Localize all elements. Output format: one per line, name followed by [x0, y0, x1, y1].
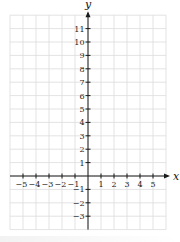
y-tick-label: 9: [79, 51, 84, 60]
x-tick-label: −5: [16, 180, 28, 189]
x-axis-label: x: [173, 170, 180, 183]
axes: [10, 11, 170, 229]
coordinate-plane: −5−4−3−2−112345 1110987654321−1−2−3 x y: [0, 0, 180, 242]
x-tick-label: 4: [137, 180, 142, 189]
x-tick-label: −3: [42, 180, 54, 189]
y-tick-label: 2: [79, 145, 84, 154]
x-tick-label: 1: [98, 180, 103, 189]
y-tick-label: 7: [79, 78, 84, 87]
y-tick-label: 1: [79, 159, 84, 168]
y-tick-label: 11: [74, 25, 84, 34]
y-axis-label: y: [84, 0, 92, 11]
x-tick-label: 5: [150, 180, 155, 189]
y-tick-label: 4: [79, 118, 84, 127]
x-tick-label: −4: [29, 180, 41, 189]
x-tick-label: 2: [111, 180, 116, 189]
y-tick-label: −2: [73, 199, 85, 208]
y-tick-label: −3: [73, 212, 85, 221]
footer-artifact-strip: [0, 236, 180, 242]
y-tick-label: 10: [74, 38, 84, 47]
y-tick-label: 8: [79, 65, 84, 74]
x-tick-label: 3: [124, 180, 129, 189]
y-tick-label: −1: [73, 185, 85, 194]
x-tick-label: −2: [55, 180, 67, 189]
x-axis-arrow-icon: [164, 174, 170, 179]
y-tick-label: 5: [79, 105, 84, 114]
y-axis-arrow-icon: [86, 11, 91, 17]
y-tick-label: 3: [79, 132, 84, 141]
y-tick-label: 6: [79, 92, 84, 101]
